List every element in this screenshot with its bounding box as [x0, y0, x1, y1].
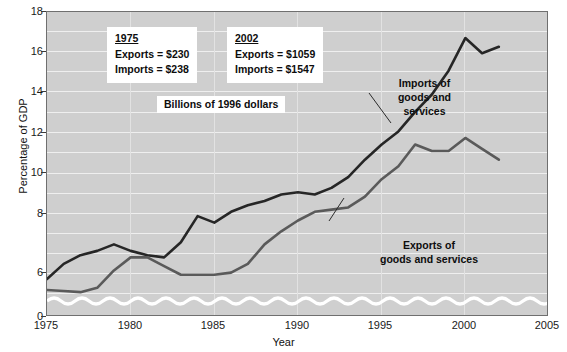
data-box-2002-imports: Imports = $1547	[235, 62, 315, 77]
x-tick-label: 2000	[440, 320, 488, 331]
chart-figure: 18 16 14 12 10 8 6 0 Percentage of GDP	[0, 0, 567, 352]
plot-area: 1975 Exports = $230 Imports = $238 2002 …	[46, 11, 548, 316]
imports-line-label-line2: goods and	[377, 90, 472, 104]
exports-line-label-line2: goods and services	[365, 252, 493, 266]
imports-line-label-line1: Imports of	[377, 76, 472, 90]
data-box-1975-year: 1975	[115, 31, 189, 46]
y-axis-label: Percentage of GDP	[17, 66, 29, 226]
x-tick-label: 2005	[523, 320, 567, 331]
x-tick-label: 1995	[356, 320, 404, 331]
y-tick-mark	[41, 316, 46, 317]
exports-line	[47, 138, 499, 292]
imports-line-label-line3: services	[377, 104, 472, 118]
gridline-vertical	[214, 12, 215, 315]
x-axis-label: Year	[0, 336, 567, 348]
units-note: Billions of 1996 dollars	[157, 96, 285, 113]
exports-line-label: Exports of goods and services	[365, 238, 493, 266]
gridline-vertical	[381, 12, 382, 315]
y-tick-label: 6	[3, 267, 43, 278]
y-tick-label: 18	[3, 6, 43, 17]
gridline-vertical	[464, 12, 465, 315]
x-tick-label: 1990	[273, 320, 321, 331]
imports-line-label: Imports of goods and services	[377, 76, 472, 119]
data-box-1975-exports: Exports = $230	[115, 47, 189, 62]
data-box-2002-year: 2002	[235, 31, 315, 46]
data-box-1975: 1975 Exports = $230 Imports = $238	[107, 27, 197, 83]
y-tick-label: 16	[3, 46, 43, 57]
x-tick-label: 1975	[22, 320, 70, 331]
data-box-1975-imports: Imports = $238	[115, 62, 189, 77]
data-box-2002: 2002 Exports = $1059 Imports = $1547	[227, 27, 323, 83]
exports-line-label-line1: Exports of	[365, 238, 493, 252]
exports-leader-line	[329, 198, 344, 221]
x-tick-label: 1985	[189, 320, 237, 331]
data-box-2002-exports: Exports = $1059	[235, 47, 315, 62]
x-tick-label: 1980	[106, 320, 154, 331]
